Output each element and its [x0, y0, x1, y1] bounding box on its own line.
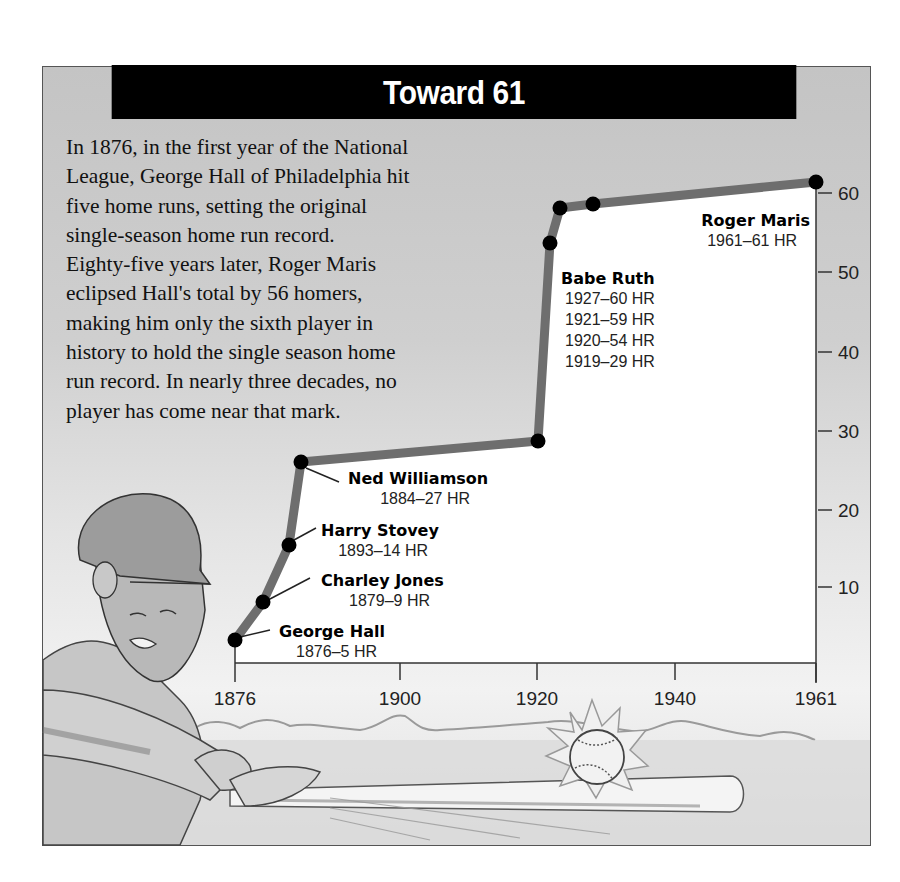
- title-banner: Toward 61: [112, 65, 797, 119]
- intro-line: making him only the sixth player in: [66, 309, 486, 338]
- intro-line: League, George Hall of Philadelphia hit: [66, 162, 486, 191]
- y-tick-label: 20: [838, 500, 859, 521]
- intro-line: eclipsed Hall's total by 56 homers,: [66, 279, 486, 308]
- x-tick-label: 1900: [379, 688, 421, 709]
- label-roger-maris-record: 1961–61 HR: [707, 232, 797, 249]
- label-harry-stovey-name: Harry Stovey: [321, 521, 439, 540]
- intro-line: run record. In nearly three decades, no: [66, 367, 486, 396]
- intro-line: five home runs, setting the original: [66, 192, 486, 221]
- point-ruth-1920: [543, 236, 558, 251]
- point-ned-williamson: [294, 455, 309, 470]
- x-tick-label: 1961: [795, 688, 837, 709]
- baseball-icon: [570, 730, 624, 784]
- page-title: Toward 61: [383, 73, 525, 112]
- intro-line: history to hold the single season home: [66, 338, 486, 367]
- intro-line: Eighty-five years later, Roger Maris: [66, 250, 486, 279]
- intro-line: In 1876, in the first year of the Nation…: [66, 133, 486, 162]
- intro-paragraph: In 1876, in the first year of the Nation…: [66, 133, 486, 426]
- point-harry-stovey: [282, 538, 297, 553]
- label-ned-williamson-name: Ned Williamson: [348, 469, 488, 488]
- label-babe-ruth-record: 1920–54 HR: [565, 332, 655, 349]
- label-harry-stovey-record: 1893–14 HR: [338, 542, 428, 559]
- intro-line: single-season home run record.: [66, 221, 486, 250]
- y-tick-label: 40: [838, 342, 859, 363]
- point-charley-jones: [256, 595, 271, 610]
- label-charley-jones-record: 1879–9 HR: [349, 592, 430, 609]
- point-ruth-1927: [586, 197, 601, 212]
- y-tick-label: 60: [838, 183, 859, 204]
- point-ruth-1919: [531, 434, 546, 449]
- label-babe-ruth-name: Babe Ruth: [561, 269, 655, 288]
- y-tick-label: 30: [838, 421, 859, 442]
- intro-line: player has come near that mark.: [66, 397, 486, 426]
- y-tick-label: 10: [838, 577, 859, 598]
- label-ned-williamson-record: 1884–27 HR: [380, 490, 470, 507]
- x-tick-label: 1876: [214, 688, 256, 709]
- label-babe-ruth-record: 1921–59 HR: [565, 311, 655, 328]
- label-babe-ruth-record: 1927–60 HR: [565, 290, 655, 307]
- x-tick-label: 1940: [654, 688, 696, 709]
- point-george-hall: [228, 633, 243, 648]
- label-george-hall-record: 1876–5 HR: [296, 643, 377, 660]
- y-axis-ticks: [818, 193, 832, 587]
- label-george-hall-name: George Hall: [279, 622, 385, 641]
- x-tick-label: 1920: [516, 688, 558, 709]
- y-tick-label: 50: [838, 262, 859, 283]
- label-charley-jones-name: Charley Jones: [321, 571, 444, 590]
- batter-illustration: [43, 494, 320, 845]
- label-roger-maris-name: Roger Maris: [701, 211, 810, 230]
- cloud-horizon: [195, 715, 815, 740]
- point-roger-maris: [809, 175, 824, 190]
- label-babe-ruth-record: 1919–29 HR: [565, 353, 655, 370]
- point-ruth-1921: [553, 201, 568, 216]
